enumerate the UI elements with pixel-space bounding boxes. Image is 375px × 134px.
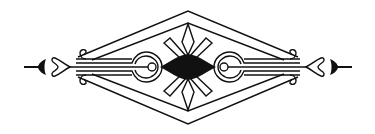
center-filled-diamond [160,54,216,80]
right-arrowhead [330,59,352,75]
left-arrowhead [24,59,46,75]
ornament-divider [0,0,375,134]
ornament-svg [0,0,375,134]
